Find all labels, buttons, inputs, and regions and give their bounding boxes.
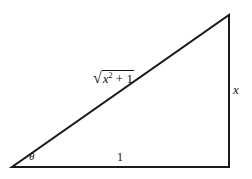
adjacent-side-label: 1 (117, 151, 123, 163)
angle-label: θ (29, 151, 34, 162)
triangle-figure (0, 0, 252, 179)
right-triangle (12, 15, 229, 167)
radical-sign: √ (93, 69, 102, 86)
radicand-constant: + 1 (113, 71, 133, 86)
radicand: x2 + 1 (102, 70, 134, 86)
hypotenuse-label: √x2 + 1 (93, 70, 134, 86)
opposite-side-label: x (233, 83, 239, 96)
